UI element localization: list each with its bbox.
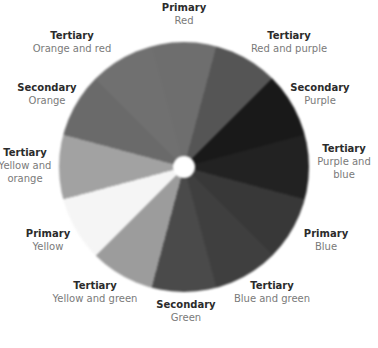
label-category: Tertiary: [0, 146, 53, 159]
label-color-name: Purple and blue: [316, 155, 372, 181]
label-category: Tertiary: [316, 142, 372, 155]
label-color-name: Purple: [290, 94, 349, 107]
label-category: Tertiary: [53, 279, 138, 292]
label-color-name: Green: [156, 311, 215, 324]
label-tertiary-red-purple: Tertiary Red and purple: [251, 29, 327, 55]
label-color-name: Orange: [17, 94, 76, 107]
label-category: Tertiary: [234, 279, 310, 292]
label-color-name: Blue and green: [234, 292, 310, 305]
label-color-name: Yellow and green: [53, 292, 138, 305]
label-color-name: Orange and red: [33, 42, 112, 55]
label-color-name: Yellow and orange: [0, 159, 53, 185]
label-primary-yellow: Primary Yellow: [26, 227, 70, 253]
label-primary-blue: Primary Blue: [304, 227, 348, 253]
label-category: Tertiary: [251, 29, 327, 42]
label-category: Primary: [304, 227, 348, 240]
label-color-name: Blue: [304, 240, 348, 253]
label-secondary-green: Secondary Green: [156, 298, 215, 324]
label-category: Primary: [26, 227, 70, 240]
label-category: Primary: [162, 1, 206, 14]
label-color-name: Yellow: [26, 240, 70, 253]
label-tertiary-purple-blue: Tertiary Purple and blue: [316, 142, 372, 181]
label-tertiary-yellow-green: Tertiary Yellow and green: [53, 279, 138, 305]
label-category: Tertiary: [33, 29, 112, 42]
label-primary-red: Primary Red: [162, 1, 206, 27]
label-category: Secondary: [156, 298, 215, 311]
label-secondary-purple: Secondary Purple: [290, 81, 349, 107]
label-secondary-orange: Secondary Orange: [17, 81, 76, 107]
label-category: Secondary: [290, 81, 349, 94]
label-tertiary-yellow-orange: Tertiary Yellow and orange: [0, 146, 53, 185]
label-tertiary-orange-red: Tertiary Orange and red: [33, 29, 112, 55]
label-category: Secondary: [17, 81, 76, 94]
label-color-name: Red: [162, 14, 206, 27]
label-tertiary-blue-green: Tertiary Blue and green: [234, 279, 310, 305]
label-color-name: Red and purple: [251, 42, 327, 55]
wheel-center-hole: [173, 156, 195, 178]
